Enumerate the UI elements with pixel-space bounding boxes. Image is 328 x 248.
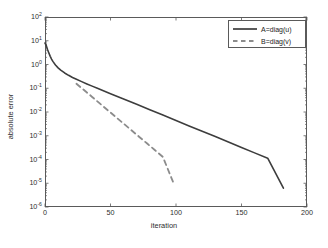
series-line-a [45,43,283,188]
y-tick-label: 10-6 [29,203,42,210]
figure-canvas: 10210110010-110-210-310-410-510-6 iterat… [0,0,328,248]
x-tick-label: 0 [43,209,47,216]
legend-swatch-dashed [232,36,258,46]
series-line-b [76,84,173,183]
y-tick-label: 100 [31,61,42,68]
y-axis-label: absolute error [6,69,15,165]
y-tick-label: 10-2 [29,108,42,115]
x-tick-label: 100 [170,209,182,216]
x-axis-label: iteration [0,221,328,230]
x-tick-label: 200 [301,209,313,216]
y-tick-label: 10-3 [29,132,42,139]
legend-item-b: B=diag(v) [232,35,302,47]
legend-item-a: A=diag(u) [232,23,302,35]
x-tick-label: 150 [236,209,248,216]
legend-swatch-solid [232,24,258,34]
y-tick-label: 10-4 [29,156,42,163]
y-tick-label: 101 [31,37,42,44]
legend-label-a: A=diag(u) [261,26,292,33]
y-tick-label: 10-5 [29,180,42,187]
y-tick-label: 10-1 [29,85,42,92]
y-tick-label: 102 [31,13,42,20]
legend: A=diag(u) B=diag(v) [228,20,306,48]
x-tick-label: 50 [107,209,115,216]
legend-label-b: B=diag(v) [261,38,291,45]
